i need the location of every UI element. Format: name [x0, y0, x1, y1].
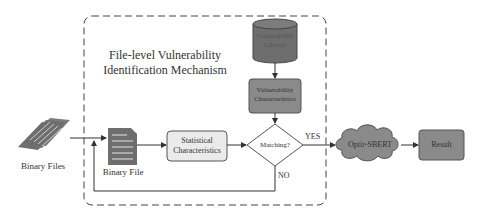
- matching-label: Matching?: [250, 140, 300, 150]
- mechanism-title: File-level Vulnerability Identification …: [100, 48, 230, 78]
- yes-label: YES: [305, 132, 320, 141]
- binary-file-label: Binary File: [98, 167, 148, 177]
- statistical-line-2: Characteristics: [167, 146, 227, 156]
- no-label: NO: [278, 171, 290, 180]
- binary-file-icon: [108, 128, 137, 165]
- library-line-1: Vulnerability: [253, 32, 297, 41]
- vulnerability-library-label: Vulnerability Library: [253, 32, 297, 50]
- statistical-characteristics-label: Statistical Characteristics: [167, 136, 227, 156]
- optir-sbert-label: Optir-SBERT: [340, 140, 400, 150]
- library-line-2: Library: [253, 41, 297, 50]
- vuln-char-line-1: Vulnerability: [249, 86, 301, 95]
- binary-files-label: Binary Files: [15, 161, 71, 171]
- binary-files-icon: [18, 118, 70, 150]
- statistical-line-1: Statistical: [167, 136, 227, 146]
- diagram-canvas: [0, 0, 477, 216]
- vuln-char-line-2: Characteristics: [249, 95, 301, 104]
- vulnerability-characteristics-label: Vulnerability Characteristics: [249, 86, 301, 104]
- title-line-1: File-level Vulnerability: [100, 48, 230, 63]
- result-label: Result: [419, 140, 464, 150]
- title-line-2: Identification Mechanism: [100, 63, 230, 78]
